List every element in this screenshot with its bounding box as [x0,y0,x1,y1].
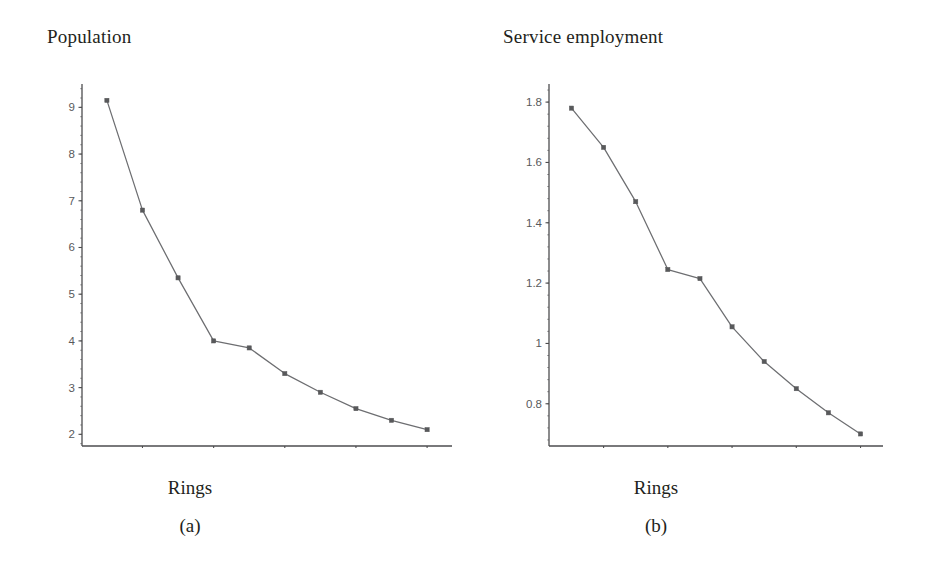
data-point-marker [666,267,670,271]
y-tick-label: 2 [69,428,75,440]
data-point-marker [425,428,429,432]
y-tick-label: 1.6 [526,156,542,168]
data-point-marker [730,325,734,329]
y-tick-label: 8 [69,148,75,160]
data-point-marker [354,407,358,411]
y-tick-label: 6 [69,241,75,253]
data-point-marker [176,276,180,280]
y-tick-label: 3 [69,382,75,394]
data-point-marker [389,418,393,422]
data-point-marker [858,432,862,436]
data-point-marker [140,208,144,212]
y-tick-label: 0.8 [526,398,542,410]
data-point-marker [698,276,702,280]
data-point-marker [105,98,109,102]
x-axis-label-a: Rings [130,477,250,499]
data-point-marker [762,359,766,363]
data-series-line [571,108,860,434]
y-tick-label: 1.4 [526,217,543,229]
chart-svg-a: 23456789246810 [60,78,460,448]
y-tick-label: 5 [69,288,75,300]
y-tick-label: 1.2 [526,277,542,289]
chart-svg-b: 0.811.21.41.61.8246810 [491,78,891,448]
data-point-marker [794,387,798,391]
y-tick-label: 1 [536,337,542,349]
chart-panel-a: Population 23456789246810 Rings (a) [0,0,466,574]
plot-area-b: 0.811.21.41.61.8246810 [491,78,891,448]
data-point-marker [826,411,830,415]
chart-panel-b: Service employment 0.811.21.41.61.824681… [466,0,932,574]
data-point-marker [247,346,251,350]
chart-caption-a: (a) [160,515,220,537]
y-tick-label: 7 [69,195,75,207]
y-tick-label: 4 [69,335,76,347]
data-point-marker [318,390,322,394]
x-axis-label-b: Rings [596,477,716,499]
data-point-marker [634,200,638,204]
data-point-marker [569,106,573,110]
chart-title-a: Population [47,26,131,48]
chart-title-b: Service employment [503,26,663,48]
chart-caption-b: (b) [626,515,686,537]
data-point-marker [602,145,606,149]
plot-area-a: 23456789246810 [60,78,460,448]
figure-container: Population 23456789246810 Rings (a) Serv… [0,0,932,574]
data-series-line [107,100,427,429]
data-point-marker [283,372,287,376]
y-tick-label: 9 [69,101,75,113]
y-tick-label: 1.8 [526,96,542,108]
data-point-marker [212,339,216,343]
